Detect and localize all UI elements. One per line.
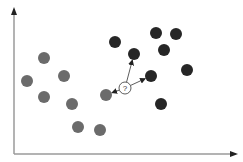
class-a-point [94,124,106,136]
class-b-point [145,70,157,82]
query-point: ? [119,82,131,94]
neighbor-arrow [127,60,133,82]
class-b-point [109,36,121,48]
class-a-point [100,89,112,101]
axes [14,9,236,154]
class-b-point [150,27,162,39]
query-label: ? [123,84,128,93]
class-a-point [21,75,33,87]
class-a-point [38,91,50,103]
data-points [21,27,193,136]
neighbor-arrow [112,90,119,93]
knn-diagram: ? [0,0,243,162]
class-b-point [128,48,140,60]
class-b-point [158,44,170,56]
class-b-point [155,98,167,110]
class-a-point [58,70,70,82]
class-b-point [181,64,193,76]
class-b-point [170,28,182,40]
diagram-canvas: ? [0,0,243,162]
neighbor-arrow [130,79,145,86]
class-a-point [38,52,50,64]
class-a-point [66,98,78,110]
class-a-point [72,121,84,133]
